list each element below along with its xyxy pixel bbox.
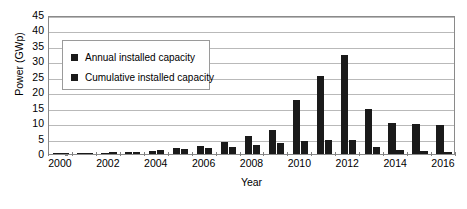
bar-group [365,17,380,154]
bar-cumulative [133,152,140,154]
legend: Annual installed capacity Cumulative ins… [62,40,210,90]
y-axis-tick-label: 35 [22,41,44,52]
bar-group [436,17,451,154]
y-axis-tick-label: 45 [22,10,44,21]
bar-annual [365,109,372,154]
legend-swatch-icon [71,74,78,81]
y-axis-tick-label: 5 [22,134,44,145]
y-axis-tick-label: 20 [22,87,44,98]
y-axis-tick-label: 30 [22,56,44,67]
legend-entry-cumulative: Cumulative installed capacity [71,70,214,84]
bar-annual [197,146,204,154]
x-axis-tick-mark [48,152,49,156]
x-axis-tick-mark [120,152,121,156]
bar-annual [125,152,132,154]
bar-group [317,17,332,154]
x-axis-tick-mark [431,152,432,156]
bar-annual [221,142,228,154]
bar-group [269,17,284,154]
legend-label: Cumulative installed capacity [85,72,214,83]
y-axis-tick-label: 10 [22,118,44,129]
bar-annual [388,123,395,155]
bar-annual [101,153,108,154]
bar-group [341,17,356,154]
bar-cumulative [229,147,236,154]
bar-annual [317,76,324,154]
x-axis-tick-label: 2000 [40,157,80,169]
x-axis-tick-mark [287,152,288,156]
y-axis-tick-labels: 454035302520151050 [20,0,44,209]
bar-group [412,17,427,154]
bar-group [221,17,236,154]
x-axis-tick-mark [72,152,73,156]
legend-entry-annual: Annual installed capacity [71,50,195,64]
x-axis-tick-mark [216,152,217,156]
bar-cumulative [301,141,308,154]
x-axis-tick-mark [263,152,264,156]
x-axis-tick-label: 2014 [375,157,415,169]
bar-cumulative [277,143,284,154]
bar-chart: Power (GWp) 454035302520151050 200020022… [0,0,467,209]
bar-annual [245,136,252,154]
x-axis-tick-mark [96,152,97,156]
bar-cumulative [181,149,188,154]
x-axis-tick-mark [383,152,384,156]
bar-cumulative [325,140,332,154]
x-axis-tick-mark [359,152,360,156]
bar-group [245,17,260,154]
bar-group [293,17,308,154]
bar-cumulative [349,140,356,154]
bar-annual [269,130,276,154]
bar-cumulative [205,148,212,154]
x-axis-tick-mark [407,152,408,156]
x-axis-tick-label: 2008 [232,157,272,169]
y-axis-tick-label: 40 [22,25,44,36]
x-axis-tick-mark [455,152,456,156]
bar-cumulative [373,147,380,154]
bar-annual [436,125,443,154]
x-axis-title: Year [48,176,455,188]
bar-annual [173,148,180,154]
x-axis-tick-label: 2006 [184,157,224,169]
legend-label: Annual installed capacity [85,52,195,63]
x-axis-tick-mark [144,152,145,156]
y-axis-tick-label: 15 [22,103,44,114]
x-axis-tick-mark [311,152,312,156]
bar-cumulative [420,151,427,154]
bar-cumulative [61,153,68,154]
bar-annual [53,153,60,154]
legend-swatch-icon [71,54,78,61]
x-axis-tick-mark [168,152,169,156]
bar-cumulative [85,153,92,154]
y-axis-tick-mark [65,155,68,156]
x-axis-tick-label: 2012 [327,157,367,169]
bar-annual [149,151,156,154]
bar-cumulative [253,145,260,154]
x-axis-tick-mark [335,152,336,156]
bar-annual [412,124,419,154]
bar-annual [341,55,348,154]
bar-group [388,17,403,154]
x-axis-tick-mark [192,152,193,156]
x-axis-tick-labels: 200020022004200620082010201220142016 [48,157,455,173]
x-axis-tick-label: 2016 [423,157,463,169]
x-axis-tick-label: 2004 [136,157,176,169]
bar-cumulative [396,150,403,154]
x-axis-tick-label: 2010 [279,157,319,169]
bar-cumulative [444,152,451,154]
x-axis-tick-label: 2002 [88,157,128,169]
bar-cumulative [109,152,116,154]
bar-cumulative [157,150,164,154]
bar-annual [293,100,300,154]
x-axis-tick-mark [240,152,241,156]
bar-annual [77,153,84,154]
y-axis-tick-label: 25 [22,72,44,83]
